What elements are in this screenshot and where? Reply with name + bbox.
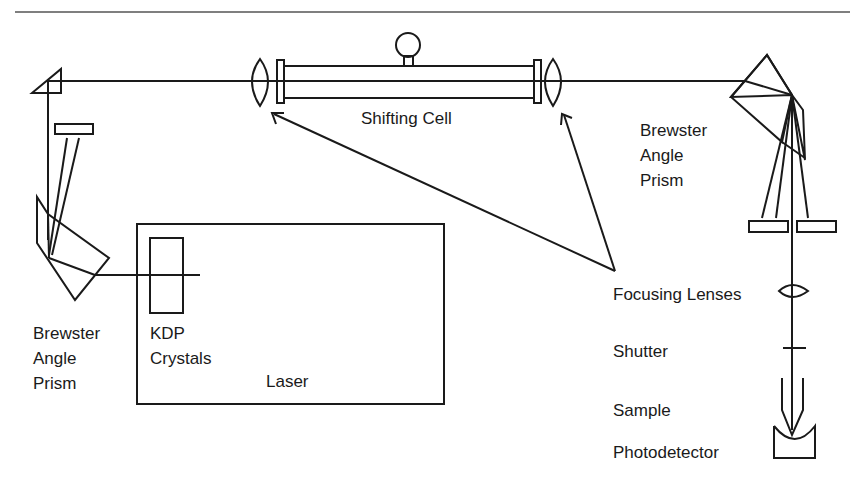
kdp-label-1: KDP <box>150 323 185 345</box>
laser-label: Laser <box>266 371 309 393</box>
right-brewster-label-3: Prism <box>640 170 683 192</box>
pressure-gauge <box>396 33 420 57</box>
shutter-label: Shutter <box>613 341 668 363</box>
left-prism-internal-ray-2 <box>48 214 49 258</box>
shifting-cell-label: Shifting Cell <box>361 108 452 130</box>
right-brewster-label-1: Brewster <box>640 120 707 142</box>
photodetector-label: Photodetector <box>613 442 719 464</box>
arrow-to-right-lens <box>564 115 615 271</box>
left-beam-ray-1 <box>49 138 67 255</box>
right-cell-lens <box>545 59 561 106</box>
focusing-lens <box>779 285 808 297</box>
left-beam-ray-2 <box>52 138 79 255</box>
right-ray-2 <box>776 95 792 218</box>
optical-diagram <box>0 0 864 484</box>
right-brewster-label-2: Angle <box>640 145 683 167</box>
left-brewster-label-2: Angle <box>33 348 76 370</box>
right-ray-1 <box>762 95 792 218</box>
kdp-label-2: Crystals <box>150 348 211 370</box>
left-brewster-label-1: Brewster <box>33 323 100 345</box>
left-cell-lens <box>252 59 268 106</box>
left-mirror-bar <box>55 124 93 134</box>
right-filter-left <box>749 221 788 232</box>
sample-label: Sample <box>613 400 671 422</box>
focusing-lenses-label: Focusing Lenses <box>613 284 742 306</box>
right-filter-right <box>797 221 836 232</box>
left-brewster-label-3: Prism <box>33 373 76 395</box>
